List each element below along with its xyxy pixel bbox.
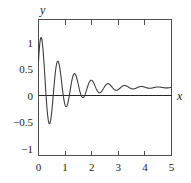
y-tick-label-minus-0-5: −0.5 (13, 116, 33, 128)
y-axis-label: y (39, 3, 46, 17)
top-axis-ticks (65, 20, 145, 25)
x-tick-label-0: 0 (36, 161, 42, 173)
x-tick-label-4: 4 (142, 161, 148, 173)
x-axis-ticks (39, 151, 172, 156)
x-tick-label-5: 5 (169, 161, 175, 173)
x-tick-label-3: 3 (116, 161, 122, 173)
x-tick-label-2: 2 (89, 161, 95, 173)
data-curve-damped-oscillation (39, 38, 172, 124)
y-tick-label-0-5: 0.5 (19, 63, 33, 75)
damped-oscillation-chart: 1 0.5 0 −0.5 −1 0 1 2 3 4 5 y x (0, 0, 191, 183)
y-tick-label-minus-1: −1 (21, 143, 33, 155)
chart-figure: 1 0.5 0 −0.5 −1 0 1 2 3 4 5 y x (0, 0, 191, 183)
x-tick-label-1: 1 (62, 161, 68, 173)
y-tick-label-0: 0 (28, 90, 34, 102)
plot-frame (39, 20, 172, 156)
x-axis-label: x (176, 89, 183, 103)
y-tick-label-1: 1 (28, 37, 34, 49)
